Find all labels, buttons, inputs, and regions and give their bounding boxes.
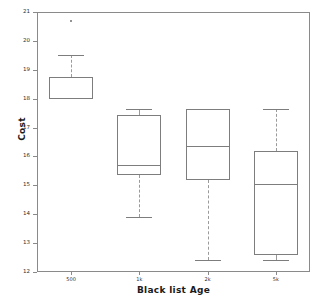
y-tick-mark [33, 41, 37, 42]
y-tick-label: 20 [23, 36, 30, 45]
whisker-cap-upper [126, 109, 152, 110]
whisker-lower [208, 180, 209, 261]
whisker-cap-lower [126, 217, 152, 218]
box-body [49, 77, 93, 99]
y-tick-label: 16 [23, 151, 30, 160]
y-tick-mark [33, 70, 37, 71]
y-tick-label: 21 [23, 7, 30, 16]
x-tick-mark [208, 272, 209, 275]
y-tick-label: 15 [23, 180, 30, 189]
outlier-point [70, 20, 72, 22]
box-body [186, 109, 230, 180]
x-tick-label: 1k [123, 276, 155, 282]
y-tick-label: 13 [23, 238, 30, 247]
median-line [254, 184, 298, 185]
y-tick-mark [33, 99, 37, 100]
x-tick-label: 2k [192, 276, 224, 282]
x-tick-mark [71, 272, 72, 275]
whisker-upper [71, 55, 72, 77]
x-tick-label: 500 [55, 276, 87, 282]
boxplot-figure: Cost Black list Age 12131415161718192021… [0, 0, 323, 302]
y-tick-mark [33, 214, 37, 215]
y-tick-mark [33, 156, 37, 157]
whisker-cap-upper [58, 55, 84, 56]
y-tick-mark [33, 243, 37, 244]
whisker-cap-upper [263, 109, 289, 110]
y-tick-label: 17 [23, 123, 30, 132]
y-tick-label: 14 [23, 209, 30, 218]
median-line [186, 146, 230, 147]
box-body [254, 151, 298, 255]
y-tick-mark [33, 12, 37, 13]
x-axis-title: Black list Age [37, 285, 310, 295]
y-tick-label: 18 [23, 94, 30, 103]
whisker-cap-lower [195, 260, 221, 261]
median-line [117, 165, 161, 166]
x-tick-mark [276, 272, 277, 275]
whisker-lower [139, 175, 140, 217]
y-tick-mark [33, 272, 37, 273]
y-tick-mark [33, 185, 37, 186]
y-tick-mark [33, 128, 37, 129]
y-tick-label: 12 [23, 267, 30, 276]
x-tick-mark [139, 272, 140, 275]
y-tick-label: 19 [23, 65, 30, 74]
whisker-cap-lower [263, 260, 289, 261]
x-tick-label: 5k [260, 276, 292, 282]
whisker-upper [276, 109, 277, 151]
